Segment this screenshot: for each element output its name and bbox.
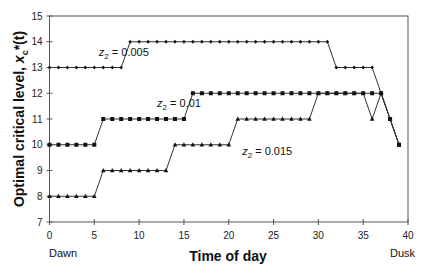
x-tick-label: 15 — [178, 230, 190, 241]
chart: 789101112131415 0510152025303540 z2 = 0.… — [0, 0, 431, 274]
data-point-diamond — [84, 66, 88, 70]
data-point-diamond — [218, 40, 222, 44]
data-point-diamond — [182, 40, 186, 44]
data-point-square — [65, 143, 69, 147]
data-point-square — [289, 91, 293, 95]
data-point-diamond — [164, 40, 168, 44]
data-point-square — [245, 91, 249, 95]
data-point-square — [146, 117, 150, 121]
y-tick-label: 8 — [37, 191, 43, 202]
data-point-diamond — [299, 40, 303, 44]
data-point-diamond — [66, 66, 70, 70]
series-z20-01 — [48, 91, 402, 147]
series-z20-015 — [47, 91, 401, 198]
data-point-square — [298, 91, 302, 95]
data-point-diamond — [236, 40, 240, 44]
y-tick-label: 14 — [31, 36, 43, 47]
x-tick-label: 20 — [223, 230, 235, 241]
data-point-diamond — [290, 40, 294, 44]
y-tick-label: 10 — [31, 139, 43, 150]
y-tick-label: 15 — [31, 11, 43, 22]
y-tick-label: 7 — [37, 217, 43, 228]
data-point-square — [307, 91, 311, 95]
data-point-diamond — [343, 66, 347, 70]
data-point-square — [83, 143, 87, 147]
data-point-diamond — [57, 66, 61, 70]
data-point-square — [227, 91, 231, 95]
x-tick-label: 25 — [268, 230, 280, 241]
y-tick-label: 11 — [32, 114, 43, 125]
y-axis-title-main: Optimal critical level, — [11, 63, 27, 207]
dawn-label: Dawn — [49, 247, 77, 259]
data-point-diamond — [308, 40, 312, 44]
y-tick-label: 9 — [37, 165, 43, 176]
x-axis-title: Time of day — [189, 248, 267, 264]
data-point-diamond — [48, 66, 52, 70]
data-point-square — [48, 143, 52, 147]
y-tick-label: 12 — [31, 88, 43, 99]
x-tick-label: 10 — [134, 230, 146, 241]
data-point-square — [119, 117, 123, 121]
x-tick-label: 30 — [313, 230, 325, 241]
data-point-square — [128, 117, 132, 121]
data-point-square — [92, 143, 96, 147]
x-tick-label: 0 — [47, 230, 53, 241]
data-point-diamond — [272, 40, 276, 44]
data-point-diamond — [191, 40, 195, 44]
data-point-square — [110, 117, 114, 121]
data-point-diamond — [245, 40, 249, 44]
data-point-diamond — [146, 40, 150, 44]
data-point-square — [263, 91, 267, 95]
data-point-diamond — [370, 66, 374, 70]
data-point-square — [182, 117, 186, 121]
data-point-square — [164, 117, 168, 121]
y-axis-title-tail: *(t) — [11, 31, 27, 50]
data-point-square — [56, 143, 60, 147]
y-axis-title: Optimal critical level, xc*(t) — [11, 31, 30, 207]
x-tick-label: 5 — [92, 230, 98, 241]
dusk-label: Dusk — [390, 247, 416, 259]
series-annotation: z2 = 0.005 — [98, 46, 149, 61]
series-group — [47, 40, 401, 198]
data-point-diamond — [317, 40, 321, 44]
data-point-diamond — [227, 40, 231, 44]
y-tick-label: 13 — [31, 62, 43, 73]
data-point-square — [155, 117, 159, 121]
data-point-square — [101, 117, 105, 121]
data-point-square — [272, 91, 276, 95]
series-annotation: z2 = 0.015 — [241, 145, 292, 160]
data-point-square — [218, 91, 222, 95]
data-point-diamond — [119, 66, 123, 70]
data-point-diamond — [209, 40, 213, 44]
data-point-diamond — [155, 40, 159, 44]
x-tick-label: 35 — [358, 230, 370, 241]
data-point-triangle — [370, 117, 375, 121]
data-point-diamond — [263, 40, 267, 44]
annotations: z2 = 0.005z2 = 0.01z2 = 0.015 — [98, 46, 292, 160]
data-point-square — [74, 143, 78, 147]
data-point-diamond — [200, 40, 204, 44]
data-point-square — [281, 91, 285, 95]
data-point-square — [173, 117, 177, 121]
data-point-diamond — [352, 66, 356, 70]
data-point-diamond — [361, 66, 365, 70]
data-point-diamond — [75, 66, 79, 70]
data-point-diamond — [110, 66, 114, 70]
data-point-diamond — [173, 40, 177, 44]
data-point-diamond — [93, 66, 97, 70]
data-point-square — [137, 117, 141, 121]
x-tick-label: 40 — [402, 230, 414, 241]
data-point-diamond — [335, 66, 339, 70]
data-point-diamond — [137, 40, 141, 44]
data-point-diamond — [281, 40, 285, 44]
data-point-diamond — [326, 40, 330, 44]
data-point-square — [236, 91, 240, 95]
series-line — [50, 93, 400, 196]
data-point-square — [200, 91, 204, 95]
data-point-square — [254, 91, 258, 95]
data-point-square — [191, 91, 195, 95]
data-point-diamond — [101, 66, 105, 70]
data-point-diamond — [254, 40, 258, 44]
data-point-square — [209, 91, 213, 95]
data-point-square — [370, 91, 374, 95]
